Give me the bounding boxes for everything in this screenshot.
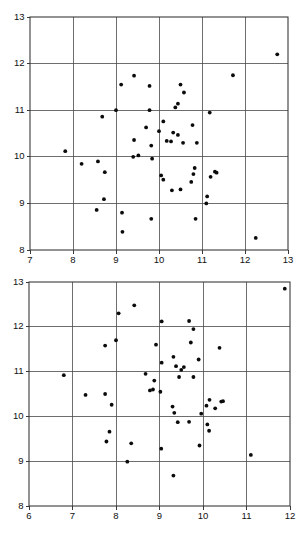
x-tick-label: 9 <box>157 510 162 521</box>
data-point <box>132 138 136 142</box>
data-point <box>172 474 176 478</box>
data-point <box>275 52 279 56</box>
data-point <box>169 140 173 144</box>
x-tick-label: 11 <box>197 254 207 265</box>
data-point <box>174 364 178 368</box>
data-point <box>161 119 165 123</box>
data-point <box>144 126 148 130</box>
data-point <box>148 108 152 112</box>
data-point <box>171 131 175 135</box>
data-point <box>254 236 258 240</box>
data-point <box>187 420 191 424</box>
data-point <box>171 405 175 409</box>
data-point-group <box>62 287 287 478</box>
data-point <box>160 320 164 324</box>
data-point <box>129 441 133 445</box>
data-point <box>131 155 135 159</box>
data-point <box>209 175 213 179</box>
data-point <box>283 287 287 291</box>
data-point <box>121 230 125 234</box>
data-point <box>195 141 199 145</box>
data-point <box>187 319 191 323</box>
y-tick-label: 12 <box>14 57 25 68</box>
data-point <box>213 406 217 410</box>
data-point <box>182 91 186 95</box>
data-point-group <box>63 52 279 239</box>
data-point <box>114 108 118 112</box>
y-tick-label: 13 <box>13 276 24 287</box>
data-point <box>125 460 129 464</box>
plot-area: 67891011128910111213 <box>13 276 295 522</box>
data-point <box>205 195 209 199</box>
data-point <box>176 420 180 424</box>
data-point <box>62 373 66 377</box>
data-point <box>136 154 140 158</box>
data-point <box>117 311 121 315</box>
y-tick-label: 11 <box>15 104 25 115</box>
data-point <box>192 327 196 331</box>
data-point <box>103 344 107 348</box>
data-point <box>198 444 202 448</box>
data-point <box>95 208 99 212</box>
data-point <box>84 393 88 397</box>
data-point <box>177 375 181 379</box>
data-point <box>103 392 107 396</box>
data-point <box>249 453 253 457</box>
data-point <box>191 123 195 127</box>
data-point <box>103 170 107 174</box>
data-point <box>149 144 153 148</box>
x-tick-label: 7 <box>27 254 32 265</box>
scatter-plot-svg-bottom: 67891011128910111213 <box>0 271 306 542</box>
data-point <box>172 411 176 415</box>
data-point <box>179 368 183 372</box>
x-tick-label: 12 <box>285 510 296 521</box>
scatter-chart-bottom: 67891011128910111213 <box>0 271 306 542</box>
x-tick-label: 7 <box>70 510 75 521</box>
data-point <box>170 188 174 192</box>
data-point <box>176 133 180 137</box>
data-point <box>192 172 196 176</box>
data-point <box>114 338 118 342</box>
data-point <box>215 171 219 175</box>
scatter-plot-svg-top: 789101112138910111213 <box>0 0 306 271</box>
data-point <box>132 303 136 307</box>
data-point <box>193 166 197 170</box>
data-point <box>173 106 177 110</box>
data-point <box>179 83 183 87</box>
data-point <box>204 202 208 206</box>
data-point <box>221 399 225 403</box>
data-point <box>176 102 180 106</box>
y-tick-label: 10 <box>13 410 24 421</box>
data-point <box>199 412 203 416</box>
data-point <box>100 115 104 119</box>
data-point <box>218 346 222 350</box>
data-point <box>205 423 209 427</box>
data-point <box>208 398 212 402</box>
x-tick-label: 13 <box>283 254 294 265</box>
x-tick-label: 9 <box>113 254 118 265</box>
data-point <box>154 343 158 347</box>
data-point <box>144 372 148 376</box>
data-point <box>150 157 154 161</box>
data-point <box>152 379 156 383</box>
scatter-chart-top: 789101112138910111213 <box>0 0 306 271</box>
data-point <box>205 404 209 408</box>
y-tick-label: 11 <box>14 365 24 376</box>
y-tick-label: 8 <box>18 500 23 511</box>
data-point <box>132 74 136 78</box>
x-tick-label: 8 <box>113 510 118 521</box>
data-point <box>108 430 112 434</box>
y-tick-label: 10 <box>14 150 25 161</box>
data-point <box>158 390 162 394</box>
data-point <box>119 83 123 87</box>
x-tick-label: 8 <box>70 254 75 265</box>
data-point <box>181 141 185 145</box>
data-point <box>63 149 67 153</box>
data-point <box>149 217 153 221</box>
data-point <box>159 447 163 451</box>
data-point <box>197 358 201 362</box>
y-tick-label: 8 <box>19 244 24 255</box>
y-tick-label: 13 <box>14 11 25 22</box>
data-point <box>80 162 84 166</box>
data-point <box>189 341 193 345</box>
